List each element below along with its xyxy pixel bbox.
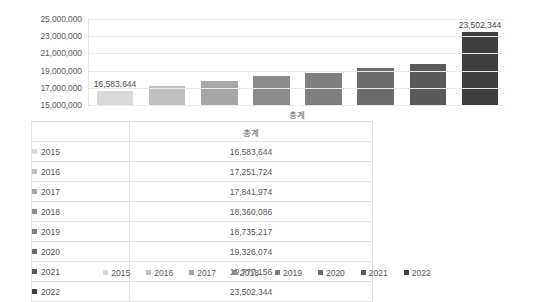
series-color-swatch-icon: [32, 209, 37, 214]
series-color-swatch-icon: [32, 169, 37, 174]
legend-item-label: 2015: [111, 268, 130, 278]
legend-swatch-icon: [404, 270, 409, 275]
table-cell-year-label: 2015: [41, 147, 60, 157]
legend-item-2020[interactable]: 2020: [318, 268, 345, 278]
legend-swatch-icon: [275, 270, 280, 275]
bar-2015: [97, 91, 133, 105]
table-header-row: 총계: [32, 122, 373, 142]
legend-item-2021[interactable]: 2021: [361, 268, 388, 278]
bar-value-label-2022: 23,502,344: [450, 20, 510, 30]
table-cell-year-label: 2016: [41, 167, 60, 177]
legend-item-2022[interactable]: 2022: [404, 268, 431, 278]
legend-item-2017[interactable]: 2017: [189, 268, 216, 278]
gridline: [89, 105, 505, 106]
table-row: 201717,841,974: [32, 182, 373, 202]
legend-item-label: 2017: [197, 268, 216, 278]
table-cell-year: 2022: [32, 282, 130, 302]
gridline: [89, 19, 505, 20]
series-color-swatch-icon: [32, 289, 37, 294]
table-row: 201818,360,086: [32, 202, 373, 222]
table-cell-total: 17,251,724: [130, 162, 373, 182]
legend-swatch-icon: [232, 270, 237, 275]
legend-item-label: 2018: [240, 268, 259, 278]
table-cell-total: 16,583,644: [130, 142, 373, 162]
bar-2018: [253, 76, 289, 105]
table-row: 201617,251,724: [32, 162, 373, 182]
legend-item-2018[interactable]: 2018: [232, 268, 259, 278]
table-row: 202223,502,344: [32, 282, 373, 302]
bar-2020: [357, 68, 393, 105]
series-color-swatch-icon: [32, 189, 37, 194]
table-cell-year: 2016: [32, 162, 130, 182]
table-cell-year: 2017: [32, 182, 130, 202]
bar-2017: [201, 81, 237, 105]
plot-area: 16,583,64423,502,344: [88, 19, 505, 106]
legend-item-2019[interactable]: 2019: [275, 268, 302, 278]
legend-item-label: 2019: [283, 268, 302, 278]
table-header-total: 총계: [130, 122, 373, 142]
y-axis-tick-label: 19,000,000: [40, 66, 82, 76]
table-cell-year: 2015: [32, 142, 130, 162]
category-axis-label: 총계: [88, 108, 505, 120]
y-axis-tick-label: 15,000,000: [40, 100, 82, 110]
chart-legend: 20152016201720182019202020212022: [0, 268, 534, 278]
table-cell-year: 2019: [32, 222, 130, 242]
gridline: [89, 53, 505, 54]
legend-item-label: 2016: [154, 268, 173, 278]
series-color-swatch-icon: [32, 149, 37, 154]
legend-item-label: 2022: [412, 268, 431, 278]
legend-swatch-icon: [146, 270, 151, 275]
legend-swatch-icon: [361, 270, 366, 275]
y-axis-tick-label: 25,000,000: [40, 14, 82, 24]
table-cell-total: 23,502,344: [130, 282, 373, 302]
table-cell-year: 2020: [32, 242, 130, 262]
gridline: [89, 36, 505, 37]
legend-item-2016[interactable]: 2016: [146, 268, 173, 278]
chart-plot-region: 25,000,00023,000,00021,000,00019,000,000…: [0, 0, 534, 122]
table-cell-year-label: 2017: [41, 187, 60, 197]
series-color-swatch-icon: [32, 229, 37, 234]
table-cell-total: 18,735,217: [130, 222, 373, 242]
table-cell-total: 19,326,074: [130, 242, 373, 262]
gridline: [89, 71, 505, 72]
table-row: 202019,326,074: [32, 242, 373, 262]
legend-item-label: 2021: [369, 268, 388, 278]
bar-series: 16,583,64423,502,344: [89, 19, 505, 106]
table-cell-total: 17,841,974: [130, 182, 373, 202]
gridline: [89, 88, 505, 89]
legend-swatch-icon: [318, 270, 323, 275]
series-color-swatch-icon: [32, 249, 37, 254]
table-row: 201918,735,217: [32, 222, 373, 242]
table-cell-year-label: 2019: [41, 227, 60, 237]
table-row: 201516,583,644: [32, 142, 373, 162]
table-header-key: [32, 122, 130, 142]
y-axis: 25,000,00023,000,00021,000,00019,000,000…: [0, 14, 88, 106]
table-cell-year-label: 2018: [41, 207, 60, 217]
y-axis-tick-label: 23,000,000: [40, 31, 82, 41]
y-axis-tick-label: 17,000,000: [40, 83, 82, 93]
table-cell-year-label: 2022: [41, 287, 60, 297]
legend-item-2015[interactable]: 2015: [103, 268, 130, 278]
table-cell-total: 18,360,086: [130, 202, 373, 222]
legend-swatch-icon: [103, 270, 108, 275]
bar-2022: [462, 32, 498, 105]
legend-item-label: 2020: [326, 268, 345, 278]
bar-2019: [305, 73, 341, 105]
table-cell-year-label: 2020: [41, 247, 60, 257]
table-cell-year: 2018: [32, 202, 130, 222]
legend-swatch-icon: [189, 270, 194, 275]
y-axis-tick-label: 21,000,000: [40, 48, 82, 58]
